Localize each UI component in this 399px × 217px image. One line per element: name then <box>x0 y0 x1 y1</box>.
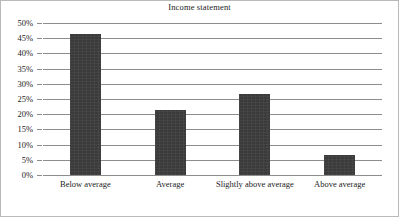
y-tick-label: 50% <box>0 19 33 28</box>
y-tick-label: 30% <box>0 80 33 89</box>
y-tick-mark <box>37 84 42 85</box>
y-tick-mark <box>37 53 42 54</box>
y-tick-label: 45% <box>0 34 33 43</box>
gridline-50 <box>43 23 382 24</box>
y-tick-mark <box>37 23 42 24</box>
bar-average <box>155 110 186 175</box>
bar-slightly-above-average <box>239 94 270 175</box>
x-axis-label: Slightly above average <box>209 179 301 190</box>
y-tick-mark <box>37 145 42 146</box>
y-tick-mark <box>37 160 42 161</box>
y-tick-mark <box>37 99 42 100</box>
x-axis-label: Above average <box>294 179 386 190</box>
plot-area <box>43 23 382 175</box>
chart-title: Income statement <box>1 2 398 12</box>
gridline-0 <box>43 175 382 176</box>
x-axis-label: Below average <box>39 179 131 190</box>
y-tick-mark <box>37 175 42 176</box>
y-tick-mark <box>37 69 42 70</box>
y-tick-mark <box>37 38 42 39</box>
y-tick-label: 40% <box>0 49 33 58</box>
y-tick-mark <box>37 114 42 115</box>
chart-figure: Income statement 50%45%40%35%30%25%20%15… <box>0 0 399 217</box>
y-tick-label: 20% <box>0 110 33 119</box>
y-tick-label: 15% <box>0 125 33 134</box>
y-tick-label: 10% <box>0 141 33 150</box>
bar-below-average <box>70 34 101 175</box>
bar-above-average <box>324 155 355 175</box>
x-axis-label: Average <box>124 179 216 190</box>
y-tick-mark <box>37 129 42 130</box>
y-tick-label: 35% <box>0 65 33 74</box>
y-tick-label: 25% <box>0 95 33 104</box>
y-tick-label: 5% <box>0 156 33 165</box>
y-tick-label: 0% <box>0 171 33 180</box>
